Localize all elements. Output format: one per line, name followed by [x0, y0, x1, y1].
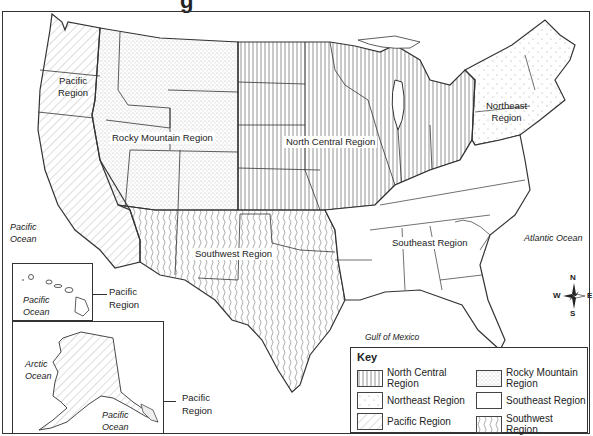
rocky-mountain-region-shape [92, 28, 238, 210]
key-item-southwest: Southwest Region [476, 413, 587, 435]
key-item-northeast: Northeast Region [357, 392, 465, 409]
diagonal-lines-swatch-icon [357, 413, 383, 430]
key-item-southeast: Southeast Region [476, 392, 586, 409]
southwest-region-label: Southwest Region [193, 248, 274, 260]
atlantic-ocean-label: Atlantic Ocean [524, 232, 583, 244]
key-item-north-central: North Central Region [357, 367, 446, 389]
northeast-region-label: Northeast Region [484, 100, 529, 124]
wavy-lines-swatch-icon [476, 416, 502, 433]
compass-rose: N S W E [555, 275, 593, 317]
alaska-inset: Arctic Ocean Pacific Ocean [12, 321, 164, 434]
key-item-rocky-mountain: Rocky Mountain Region [476, 367, 578, 389]
hawaii-leader-line [93, 294, 107, 295]
compass-south: S [570, 309, 575, 318]
dense-dots-swatch-icon [476, 370, 502, 387]
alaska-pacific-ocean-label: Pacific Ocean [102, 409, 129, 433]
pacific-ocean-label: Pacific Ocean [10, 221, 37, 245]
gulf-of-mexico-label: Gulf of Mexico [365, 331, 419, 343]
hawaii-pacific-ocean-label: Pacific Ocean [23, 294, 50, 318]
hawaii-inset: Pacific Ocean [12, 263, 93, 321]
vertical-lines-swatch-icon [357, 370, 383, 387]
alaska-pacific-region-label: Pacific Region [182, 391, 212, 417]
compass-north: N [570, 273, 576, 282]
blank-swatch-icon [476, 392, 502, 409]
sparse-dots-swatch-icon [357, 392, 383, 409]
rocky-mountain-region-label: Rocky Mountain Region [110, 132, 215, 144]
hawaii-pacific-region-label: Pacific Region [109, 285, 139, 311]
southeast-region-label: Southeast Region [390, 237, 470, 249]
northeast-region-shape [465, 20, 575, 145]
compass-east: E [587, 291, 592, 300]
arctic-ocean-label: Arctic Ocean [25, 358, 52, 382]
map-key: Key North Central Region Rocky Mountain … [350, 347, 588, 433]
alaska-leader-line [164, 401, 176, 402]
pacific-region-label: Pacific Region [56, 75, 90, 99]
compass-west: W [553, 291, 561, 300]
north-central-region-label: North Central Region [284, 136, 377, 148]
key-title: Key [357, 351, 377, 363]
key-item-pacific: Pacific Region [357, 413, 451, 430]
